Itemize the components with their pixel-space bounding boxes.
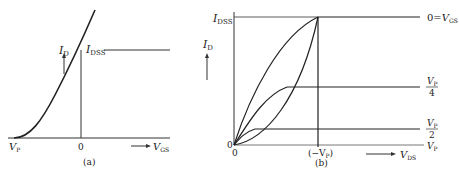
panel-a-transfer-characteristic: ID IDSS 0 VP VGS (a)	[8, 10, 170, 167]
label-vp-over-2: VP 2	[426, 118, 438, 140]
svg-text:VP: VP	[427, 118, 438, 129]
id-arrowhead-icon	[205, 53, 209, 58]
vgs-arrowhead-icon	[146, 144, 151, 148]
panel-a-origin-label: 0	[78, 142, 84, 152]
svg-text:VP: VP	[427, 76, 438, 87]
panel-b-caption: (b)	[315, 158, 328, 168]
panel-a-vgs-label: VGS	[153, 141, 169, 153]
panel-a-caption: (a)	[83, 157, 95, 167]
svg-text:4: 4	[429, 88, 435, 98]
jfet-characteristics-diagram: ID IDSS 0 VP VGS (a) IDSS ID 0 0 (−VP) V…	[0, 0, 459, 179]
panel-b-vds-label: VDS	[400, 149, 416, 161]
transfer-curve	[14, 10, 95, 138]
panel-a-vp-label: VP	[9, 141, 20, 153]
panel-b-origin-x-label: 0	[232, 148, 238, 158]
label-vgs-zero: 0=VGS	[427, 12, 458, 24]
panel-a-id-label: ID	[58, 44, 69, 58]
label-vp-over-4: VP 4	[426, 76, 438, 98]
panel-b-output-characteristics: IDSS ID 0 0 (−VP) VDS (b) 0=VGS VP 4 VP …	[202, 12, 458, 168]
svg-text:2: 2	[429, 130, 435, 140]
panel-a-idss-label: IDSS	[85, 43, 106, 57]
panel-b-idss-label: IDSS	[212, 12, 233, 26]
label-vp: VP	[427, 141, 438, 152]
vds-arrowhead-icon	[391, 152, 396, 156]
panel-b-id-label: ID	[202, 38, 213, 52]
